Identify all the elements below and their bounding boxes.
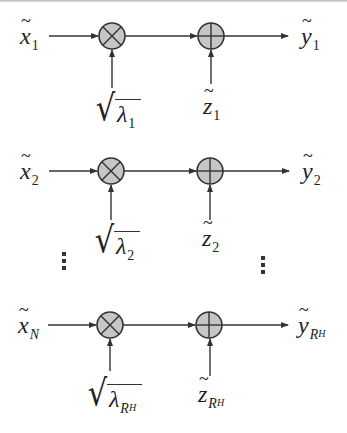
adder-node bbox=[198, 23, 224, 49]
vertical-ellipsis-left bbox=[62, 252, 66, 273]
gain-label-n: √λRH bbox=[86, 375, 142, 411]
channel-row-2 bbox=[49, 158, 289, 220]
gain-label-1: √λ1 bbox=[94, 90, 141, 126]
channel-row-n bbox=[48, 312, 288, 376]
input-label-1: ~x1 bbox=[20, 24, 39, 48]
vertical-ellipsis-right bbox=[261, 256, 265, 277]
noise-label-n: ~zRH bbox=[198, 382, 224, 406]
gain-label-2: √λ2 bbox=[93, 222, 140, 258]
adder-node bbox=[197, 158, 223, 184]
channel-row-1 bbox=[49, 23, 288, 88]
multiplier-node bbox=[97, 312, 123, 338]
input-label-2: ~x2 bbox=[20, 159, 39, 183]
noise-label-2: ~z2 bbox=[202, 226, 219, 250]
output-label-2: ~y2 bbox=[302, 159, 321, 183]
adder-node bbox=[196, 312, 222, 338]
multiplier-node bbox=[98, 158, 124, 184]
multiplier-node bbox=[99, 23, 125, 49]
output-label-1: ~y1 bbox=[301, 24, 320, 48]
noise-label-1: ~z1 bbox=[203, 94, 220, 118]
block-diagram bbox=[0, 0, 347, 433]
input-label-n: ~xN bbox=[18, 313, 39, 337]
sqrt-icon: √ bbox=[95, 222, 115, 258]
output-label-n: ~yRH bbox=[298, 313, 325, 337]
sqrt-icon: √ bbox=[96, 90, 116, 126]
sqrt-icon: √ bbox=[88, 375, 108, 411]
